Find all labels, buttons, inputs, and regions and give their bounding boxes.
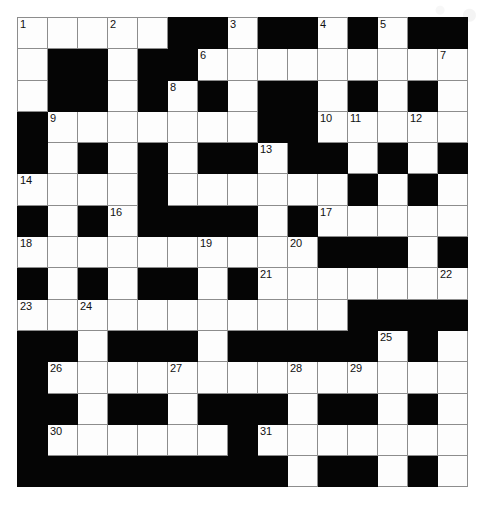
crossword-light-cell[interactable] (78, 18, 108, 49)
crossword-light-cell[interactable] (348, 143, 378, 174)
crossword-light-cell[interactable]: 8 (168, 80, 198, 111)
crossword-light-cell[interactable]: 31 (258, 424, 288, 455)
crossword-light-cell[interactable] (288, 424, 318, 455)
crossword-light-cell[interactable] (438, 330, 468, 361)
crossword-light-cell[interactable] (348, 205, 378, 236)
crossword-light-cell[interactable] (18, 49, 48, 80)
crossword-light-cell[interactable] (138, 424, 168, 455)
crossword-light-cell[interactable] (108, 80, 138, 111)
crossword-light-cell[interactable] (168, 237, 198, 268)
crossword-light-cell[interactable] (78, 237, 108, 268)
crossword-light-cell[interactable]: 13 (258, 143, 288, 174)
crossword-light-cell[interactable]: 17 (318, 205, 348, 236)
crossword-light-cell[interactable]: 12 (408, 111, 438, 142)
crossword-light-cell[interactable] (138, 111, 168, 142)
crossword-light-cell[interactable] (108, 49, 138, 80)
crossword-light-cell[interactable] (48, 18, 78, 49)
crossword-light-cell[interactable]: 26 (48, 362, 78, 393)
crossword-light-cell[interactable]: 9 (48, 111, 78, 142)
crossword-light-cell[interactable]: 7 (438, 49, 468, 80)
crossword-light-cell[interactable]: 22 (438, 268, 468, 299)
crossword-light-cell[interactable] (108, 143, 138, 174)
crossword-light-cell[interactable]: 20 (288, 237, 318, 268)
crossword-light-cell[interactable] (288, 299, 318, 330)
crossword-light-cell[interactable] (318, 299, 348, 330)
crossword-light-cell[interactable]: 18 (18, 237, 48, 268)
crossword-light-cell[interactable] (168, 299, 198, 330)
crossword-light-cell[interactable] (258, 174, 288, 205)
crossword-light-cell[interactable]: 3 (228, 18, 258, 49)
crossword-light-cell[interactable] (228, 174, 258, 205)
crossword-light-cell[interactable] (408, 362, 438, 393)
crossword-light-cell[interactable] (18, 80, 48, 111)
crossword-light-cell[interactable] (318, 174, 348, 205)
crossword-light-cell[interactable] (438, 174, 468, 205)
crossword-light-cell[interactable] (78, 362, 108, 393)
crossword-light-cell[interactable] (168, 111, 198, 142)
crossword-light-cell[interactable] (228, 80, 258, 111)
crossword-light-cell[interactable] (48, 143, 78, 174)
crossword-light-cell[interactable] (438, 456, 468, 487)
crossword-light-cell[interactable]: 28 (288, 362, 318, 393)
crossword-light-cell[interactable] (438, 111, 468, 142)
crossword-light-cell[interactable] (198, 174, 228, 205)
crossword-light-cell[interactable] (408, 49, 438, 80)
crossword-light-cell[interactable]: 5 (378, 18, 408, 49)
crossword-light-cell[interactable] (138, 362, 168, 393)
crossword-light-cell[interactable] (408, 143, 438, 174)
crossword-light-cell[interactable] (48, 174, 78, 205)
crossword-light-cell[interactable] (438, 80, 468, 111)
crossword-light-cell[interactable] (78, 330, 108, 361)
crossword-light-cell[interactable]: 19 (198, 237, 228, 268)
crossword-light-cell[interactable]: 24 (78, 299, 108, 330)
crossword-light-cell[interactable] (198, 362, 228, 393)
crossword-light-cell[interactable] (78, 424, 108, 455)
crossword-light-cell[interactable] (198, 111, 228, 142)
crossword-light-cell[interactable] (288, 456, 318, 487)
crossword-light-cell[interactable] (168, 143, 198, 174)
crossword-light-cell[interactable] (198, 299, 228, 330)
crossword-light-cell[interactable] (48, 299, 78, 330)
crossword-light-cell[interactable] (228, 49, 258, 80)
crossword-light-cell[interactable] (48, 237, 78, 268)
crossword-light-cell[interactable] (198, 330, 228, 361)
crossword-light-cell[interactable]: 1 (18, 18, 48, 49)
crossword-light-cell[interactable] (258, 299, 288, 330)
crossword-light-cell[interactable]: 21 (258, 268, 288, 299)
crossword-grid[interactable]: 1234567891011121314161718192021222324252… (17, 17, 468, 487)
crossword-light-cell[interactable] (318, 80, 348, 111)
crossword-light-cell[interactable] (348, 268, 378, 299)
crossword-light-cell[interactable] (408, 205, 438, 236)
crossword-light-cell[interactable] (108, 174, 138, 205)
crossword-light-cell[interactable] (378, 111, 408, 142)
crossword-light-cell[interactable] (138, 237, 168, 268)
crossword-light-cell[interactable] (138, 299, 168, 330)
crossword-light-cell[interactable] (348, 49, 378, 80)
crossword-light-cell[interactable] (378, 49, 408, 80)
crossword-light-cell[interactable]: 23 (18, 299, 48, 330)
crossword-light-cell[interactable]: 30 (48, 424, 78, 455)
crossword-light-cell[interactable] (378, 174, 408, 205)
crossword-light-cell[interactable] (108, 424, 138, 455)
crossword-light-cell[interactable] (108, 111, 138, 142)
crossword-light-cell[interactable]: 2 (108, 18, 138, 49)
crossword-light-cell[interactable] (168, 424, 198, 455)
crossword-light-cell[interactable] (78, 111, 108, 142)
crossword-light-cell[interactable] (348, 424, 378, 455)
crossword-light-cell[interactable]: 29 (348, 362, 378, 393)
crossword-light-cell[interactable] (408, 237, 438, 268)
crossword-light-cell[interactable]: 11 (348, 111, 378, 142)
crossword-light-cell[interactable] (318, 424, 348, 455)
crossword-light-cell[interactable] (438, 424, 468, 455)
crossword-light-cell[interactable] (318, 49, 348, 80)
crossword-light-cell[interactable] (378, 393, 408, 424)
crossword-light-cell[interactable]: 10 (318, 111, 348, 142)
crossword-light-cell[interactable] (198, 424, 228, 455)
crossword-light-cell[interactable] (378, 362, 408, 393)
crossword-light-cell[interactable] (408, 268, 438, 299)
crossword-light-cell[interactable] (168, 393, 198, 424)
crossword-light-cell[interactable] (318, 268, 348, 299)
crossword-light-cell[interactable] (288, 268, 318, 299)
crossword-light-cell[interactable] (108, 299, 138, 330)
crossword-light-cell[interactable] (438, 205, 468, 236)
